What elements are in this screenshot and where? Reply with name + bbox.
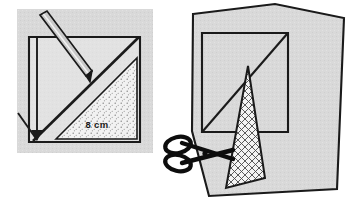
- diagram-canvas: 8 cm: [0, 0, 356, 209]
- scissors-pivot: [202, 151, 207, 156]
- illustration-figure: 8 cm: [0, 0, 356, 209]
- left-side-length-label: 8 cm: [86, 119, 109, 130]
- panel-right: [164, 4, 344, 196]
- panel-left: 8 cm: [17, 9, 153, 153]
